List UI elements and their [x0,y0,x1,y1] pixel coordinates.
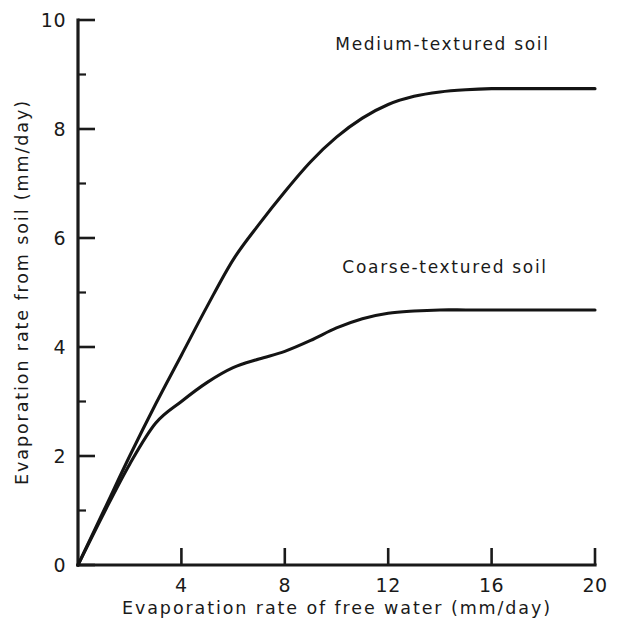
x-tick-label: 20 [582,574,607,596]
y-tick-label: 8 [53,118,66,140]
y-tick-label: 6 [53,227,66,249]
series-label-medium-textured-soil: Medium-textured soil [335,34,549,54]
y-tick-label: 2 [53,445,66,467]
x-axis-title: Evaporation rate of free water (mm/day) [122,598,552,618]
x-tick-label: 12 [376,574,401,596]
y-tick-label: 4 [53,336,66,358]
evaporation-chart: 0246810 48121620 Medium-textured soilCoa… [0,0,637,623]
y-tick-label: 10 [41,9,66,31]
x-tick-label: 8 [279,574,292,596]
chart-canvas: 0246810 48121620 Medium-textured soilCoa… [0,0,637,623]
x-tick-label: 16 [479,574,504,596]
y-axis-title: Evaporation rate from soil (mm/day) [12,99,32,485]
x-tick-label: 4 [175,574,188,596]
series-label-coarse-textured-soil: Coarse-textured soil [342,257,547,277]
y-tick-label: 0 [53,554,66,576]
